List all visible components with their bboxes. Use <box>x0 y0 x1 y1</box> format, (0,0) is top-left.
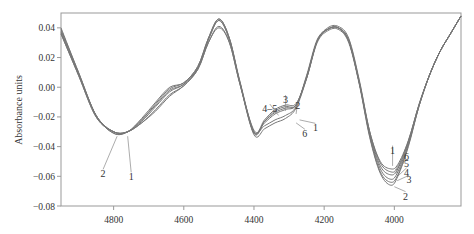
x-tick-label: 4200 <box>315 215 334 225</box>
series-line-6 <box>61 16 461 172</box>
annotation-label: 6 <box>302 128 307 139</box>
y-tick-label: −0.04 <box>33 142 55 152</box>
plot-frame <box>61 13 461 206</box>
annotation-label: 2 <box>295 100 300 111</box>
y-axis: 0.040.020.00−0.02−0.04−0.06−0.08 <box>33 23 61 211</box>
series-group <box>61 16 461 185</box>
x-axis: 48004600440042004000 <box>104 206 404 225</box>
y-tick-label: 0.00 <box>38 83 55 93</box>
y-tick-label: −0.08 <box>33 202 55 212</box>
annotation-label: 2 <box>101 168 106 179</box>
series-line-4 <box>61 16 461 179</box>
annotation-label: 3 <box>283 94 288 105</box>
y-tick-label: −0.02 <box>33 112 55 122</box>
y-tick-label: −0.06 <box>33 172 55 182</box>
absorbance-chart: Absorbance units 0.040.020.00−0.02−0.04−… <box>0 0 474 234</box>
series-line-5 <box>61 16 461 175</box>
x-tick-label: 4800 <box>104 215 123 225</box>
y-axis-title: Absorbance units <box>13 75 24 145</box>
annotation-label: 2 <box>403 191 408 202</box>
series-line-3 <box>61 16 461 182</box>
annotation-leader <box>103 136 117 169</box>
annotation-label: 3 <box>407 174 412 185</box>
annotation-label: 1 <box>313 122 318 133</box>
series-line-1 <box>61 16 461 169</box>
annotation-leader <box>128 136 132 172</box>
y-tick-label: 0.02 <box>38 53 55 63</box>
x-tick-label: 4400 <box>244 215 263 225</box>
annotation-label: 1 <box>129 171 134 182</box>
y-tick-label: 0.04 <box>38 23 55 33</box>
x-tick-label: 4000 <box>385 215 404 225</box>
x-tick-label: 4600 <box>174 215 193 225</box>
annotation-label: 1 <box>390 145 395 156</box>
annotation-label: 4–5 <box>262 103 277 114</box>
